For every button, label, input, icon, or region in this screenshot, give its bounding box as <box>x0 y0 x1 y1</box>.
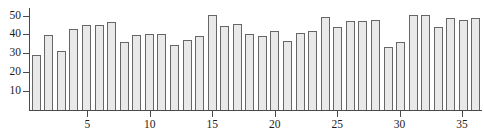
bar-slot <box>156 8 169 110</box>
bar[interactable] <box>446 18 455 110</box>
x-axis-tick <box>150 111 151 117</box>
bar-slot <box>281 8 294 110</box>
bar[interactable] <box>183 40 192 110</box>
bar-slot <box>470 8 483 110</box>
bar-slot <box>419 8 432 110</box>
bar-slot <box>231 8 244 110</box>
bar[interactable] <box>220 26 229 110</box>
bar[interactable] <box>57 51 66 111</box>
bar[interactable] <box>459 20 468 110</box>
x-axis-tick-label: 35 <box>456 119 468 131</box>
bar[interactable] <box>384 47 393 110</box>
bar[interactable] <box>308 31 317 110</box>
bar[interactable] <box>44 35 53 110</box>
x-axis-tick <box>275 111 276 117</box>
x-axis-tick-label: 20 <box>269 119 281 131</box>
x-axis-line <box>29 110 482 111</box>
bar[interactable] <box>421 15 430 110</box>
bar[interactable] <box>145 34 154 111</box>
x-axis-tick-label: 25 <box>331 119 343 131</box>
bar[interactable] <box>69 29 78 110</box>
bar[interactable] <box>195 36 204 110</box>
bar-slot <box>55 8 68 110</box>
bars-layer <box>30 8 482 110</box>
bar[interactable] <box>107 22 116 110</box>
bar[interactable] <box>157 34 166 111</box>
bar-slot <box>168 8 181 110</box>
bar-slot <box>206 8 219 110</box>
bar-slot <box>432 8 445 110</box>
bar-slot <box>306 8 319 110</box>
x-axis-tick-label: 30 <box>394 119 406 131</box>
bar-slot <box>294 8 307 110</box>
y-axis-tick-label: 30 <box>0 47 21 59</box>
x-axis-tick-label: 5 <box>85 119 91 131</box>
x-axis-tick <box>212 111 213 117</box>
bar[interactable] <box>296 33 305 110</box>
x-axis-tick <box>337 111 338 117</box>
bar[interactable] <box>233 24 242 110</box>
bar[interactable] <box>333 27 342 110</box>
x-axis-tick <box>400 111 401 117</box>
bar-slot <box>369 8 382 110</box>
bar-slot <box>193 8 206 110</box>
bar[interactable] <box>95 25 104 110</box>
bar-chart: 1020304050 5101520253035 <box>0 0 484 134</box>
bar-slot <box>407 8 420 110</box>
bar-slot <box>93 8 106 110</box>
bar[interactable] <box>471 18 480 110</box>
bar-slot <box>344 8 357 110</box>
bar-slot <box>445 8 458 110</box>
bar[interactable] <box>245 34 254 111</box>
bar[interactable] <box>434 27 443 110</box>
bar-slot <box>332 8 345 110</box>
bar[interactable] <box>321 17 330 110</box>
bar-slot <box>244 8 257 110</box>
bar[interactable] <box>371 20 380 110</box>
bar-slot <box>105 8 118 110</box>
bar[interactable] <box>283 41 292 110</box>
bar-slot <box>319 8 332 110</box>
bar[interactable] <box>82 25 91 110</box>
bar[interactable] <box>346 21 355 110</box>
x-axis-tick <box>462 111 463 117</box>
y-axis-tick-label: 20 <box>0 66 21 78</box>
bar-slot <box>30 8 43 110</box>
bar-slot <box>218 8 231 110</box>
x-axis-tick-label: 15 <box>207 119 219 131</box>
bar[interactable] <box>132 35 141 110</box>
bar-slot <box>256 8 269 110</box>
x-axis-tick-label: 10 <box>144 119 156 131</box>
y-axis-tick-label: 40 <box>0 28 21 40</box>
bar-slot <box>181 8 194 110</box>
bar[interactable] <box>358 21 367 110</box>
y-axis-tick-label: 50 <box>0 10 21 22</box>
bar-slot <box>457 8 470 110</box>
bar-slot <box>269 8 282 110</box>
bar[interactable] <box>32 55 41 110</box>
bar-slot <box>118 8 131 110</box>
bar-slot <box>131 8 144 110</box>
bar-slot <box>357 8 370 110</box>
bar[interactable] <box>208 15 217 110</box>
y-axis-tick-label: 10 <box>0 85 21 97</box>
bar-slot <box>382 8 395 110</box>
bar-slot <box>143 8 156 110</box>
bar[interactable] <box>170 45 179 110</box>
bar[interactable] <box>409 15 418 110</box>
bar[interactable] <box>120 42 129 110</box>
bar-slot <box>43 8 56 110</box>
bar[interactable] <box>270 31 279 110</box>
bar-slot <box>80 8 93 110</box>
plot-area <box>30 8 482 110</box>
bar-slot <box>68 8 81 110</box>
bar-slot <box>394 8 407 110</box>
x-axis-tick <box>87 111 88 117</box>
bar[interactable] <box>396 42 405 110</box>
bar[interactable] <box>258 36 267 110</box>
